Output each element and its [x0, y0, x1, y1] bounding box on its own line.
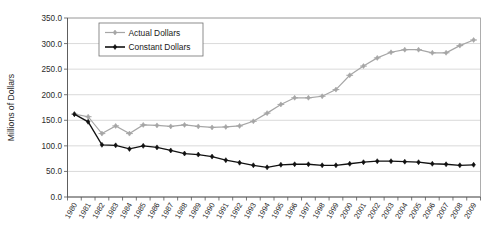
- xtick-label-1988: 1988: [173, 201, 189, 220]
- datapoint-1-1992: [238, 160, 242, 165]
- datapoint-1-1980: [73, 112, 77, 117]
- datapoint-1-1994: [265, 165, 269, 170]
- datapoint-1-2004: [403, 159, 407, 164]
- chart-container: 0.050.0100.0150.0200.0250.0300.0350.0198…: [0, 0, 501, 242]
- datapoint-1-1991: [224, 158, 228, 163]
- xtick-label-1996: 1996: [283, 201, 299, 220]
- legend-label-1: Constant Dollars: [129, 42, 191, 52]
- ytick-label-150: 150.0: [42, 116, 63, 125]
- x-axis-group: 1980198119821983198419851986198719881989…: [63, 197, 481, 220]
- series-path-1: [74, 114, 473, 167]
- datapoint-1-1983: [114, 143, 118, 148]
- xtick-label-2005: 2005: [407, 201, 423, 220]
- ytick-label-50: 50.0: [46, 167, 62, 176]
- xtick-label-1998: 1998: [311, 201, 327, 220]
- datapoint-1-1999: [334, 163, 338, 168]
- ytick-label-200: 200.0: [42, 91, 63, 100]
- xtick-label-2000: 2000: [338, 201, 354, 220]
- xtick-label-2007: 2007: [435, 201, 451, 220]
- xtick-label-2001: 2001: [352, 201, 368, 220]
- xtick-label-2003: 2003: [380, 201, 396, 220]
- xtick-label-1982: 1982: [90, 201, 106, 220]
- datapoint-1-1996: [293, 162, 297, 167]
- xtick-label-1985: 1985: [132, 201, 148, 220]
- xtick-label-1983: 1983: [104, 201, 120, 220]
- xtick-label-1999: 1999: [324, 201, 340, 220]
- xtick-label-1986: 1986: [145, 201, 161, 220]
- datapoint-1-2000: [348, 161, 352, 166]
- datapoint-1-1984: [128, 146, 132, 151]
- xtick-label-2006: 2006: [421, 201, 437, 220]
- datapoint-1-1993: [252, 163, 256, 168]
- datapoint-1-2003: [389, 159, 393, 164]
- datapoint-1-1989: [196, 152, 200, 157]
- line-chart: 0.050.0100.0150.0200.0250.0300.0350.0198…: [0, 0, 501, 242]
- legend-label-0: Actual Dollars: [129, 28, 181, 38]
- datapoint-1-1990: [210, 154, 214, 159]
- xtick-label-1990: 1990: [201, 201, 217, 220]
- xtick-label-1992: 1992: [228, 201, 244, 220]
- xtick-label-1993: 1993: [242, 201, 258, 220]
- legend: Actual DollarsConstant Dollars: [99, 23, 203, 56]
- xtick-label-1980: 1980: [63, 201, 79, 220]
- datapoint-1-1997: [307, 162, 311, 167]
- ytick-label-250: 250.0: [42, 65, 63, 74]
- datapoint-1-1985: [141, 143, 145, 148]
- ytick-label-350: 350.0: [42, 14, 63, 23]
- xtick-label-1994: 1994: [256, 201, 272, 220]
- datapoint-1-2005: [417, 160, 421, 165]
- xtick-label-2009: 2009: [462, 201, 478, 220]
- xtick-label-1997: 1997: [297, 201, 313, 220]
- xtick-label-1991: 1991: [214, 201, 230, 220]
- datapoint-1-2006: [431, 161, 435, 166]
- xtick-label-2008: 2008: [448, 201, 464, 220]
- datapoint-1-2007: [444, 162, 448, 167]
- ytick-label-0: 0.0: [51, 193, 63, 202]
- xtick-label-2002: 2002: [366, 201, 382, 220]
- xtick-label-1987: 1987: [159, 201, 175, 220]
- datapoint-1-1998: [320, 163, 324, 168]
- datapoint-1-2009: [472, 162, 476, 167]
- ytick-label-100: 100.0: [42, 142, 63, 151]
- ytick-label-300: 300.0: [42, 40, 63, 49]
- xtick-label-1981: 1981: [77, 201, 93, 220]
- datapoint-1-1987: [169, 148, 173, 153]
- xtick-label-2004: 2004: [393, 201, 409, 220]
- datapoint-1-2001: [362, 160, 366, 165]
- datapoint-1-1995: [279, 162, 283, 167]
- xtick-label-1984: 1984: [118, 201, 134, 220]
- datapoint-1-2008: [458, 163, 462, 168]
- xtick-label-1995: 1995: [269, 201, 285, 220]
- datapoint-1-1988: [183, 151, 187, 156]
- y-axis-title: Millions of Dollars: [6, 74, 16, 141]
- xtick-label-1989: 1989: [187, 201, 203, 220]
- datapoint-1-2002: [375, 159, 379, 164]
